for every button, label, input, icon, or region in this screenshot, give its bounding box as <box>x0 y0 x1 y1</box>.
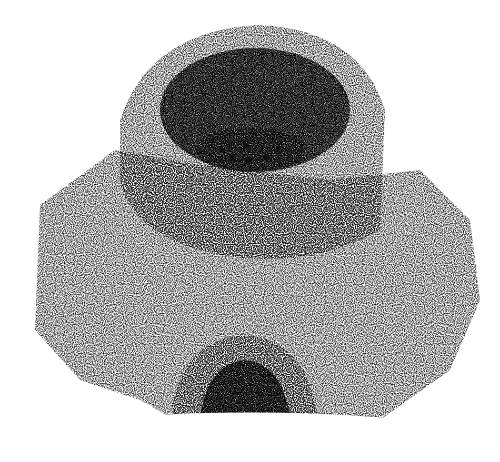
vent-hole <box>263 154 269 160</box>
ground-mask <box>0 413 500 462</box>
vent-hole <box>220 148 225 153</box>
kiln-mouth-floor <box>195 128 305 172</box>
vent-hole <box>246 157 253 164</box>
vent-hole <box>276 146 281 151</box>
vent-hole <box>243 143 249 149</box>
vent-hole <box>229 155 235 161</box>
kiln-illustration <box>0 0 500 462</box>
